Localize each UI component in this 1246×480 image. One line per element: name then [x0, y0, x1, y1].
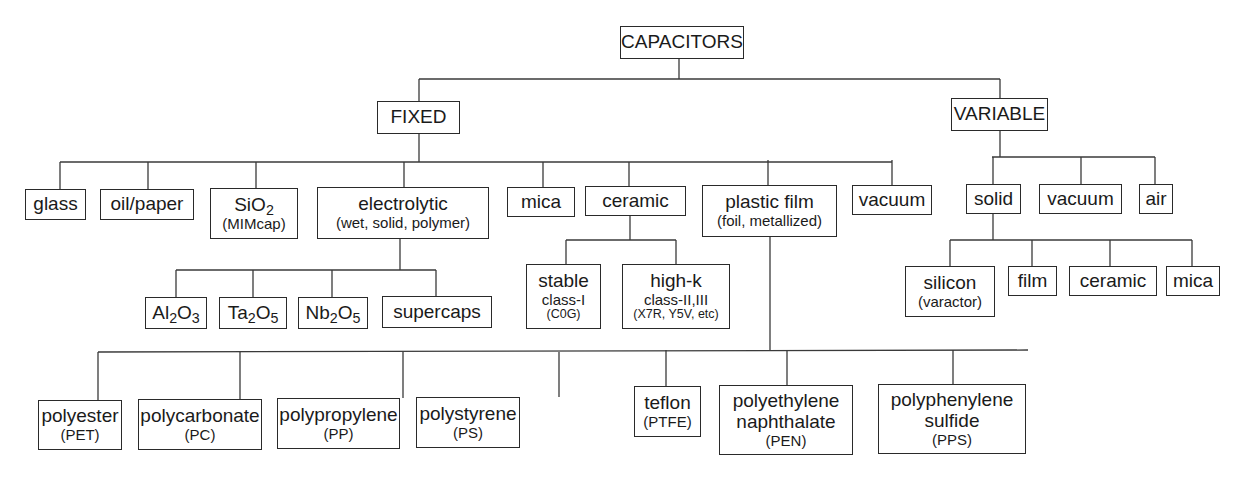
node-note: (varactor) — [918, 294, 982, 311]
node-label: plastic film — [725, 192, 814, 213]
node-film: film — [1008, 266, 1057, 296]
node-ceramic-variable: ceramic — [1069, 266, 1157, 296]
node-oil-paper: oil/paper — [100, 189, 194, 220]
node-stable: stable class-I (C0G) — [526, 264, 601, 329]
node-silicon: silicon (varactor) — [905, 266, 995, 317]
node-label: mica — [1173, 271, 1213, 292]
node-al2o3: Al2O3 — [145, 297, 207, 329]
node-fixed: FIXED — [377, 101, 460, 134]
node-label-formula: Al2O3 — [152, 303, 200, 324]
node-label: polystyrene — [419, 404, 516, 425]
node-label: polyethylene — [733, 391, 840, 412]
node-label: oil/paper — [111, 194, 184, 215]
node-electrolytic: electrolytic (wet, solid, polymer) — [317, 187, 489, 239]
node-mica: mica — [507, 187, 575, 217]
node-polystyrene: polystyrene (PS) — [416, 397, 520, 448]
node-code: (C0G) — [546, 308, 580, 322]
node-plastic-film: plastic film (foil, metallized) — [702, 185, 837, 237]
node-capacitors: CAPACITORS — [620, 26, 744, 59]
node-label: silicon — [924, 273, 977, 294]
node-polypropylene: polypropylene (PP) — [277, 398, 400, 449]
node-label: stable — [538, 271, 589, 292]
node-abbr: (PP) — [324, 426, 354, 443]
node-note: (MIMcap) — [222, 216, 285, 233]
node-solid: solid — [966, 184, 1021, 214]
node-label: vacuum — [859, 190, 926, 211]
node-abbr: (PEN) — [766, 433, 807, 450]
node-vacuum-variable: vacuum — [1039, 184, 1122, 214]
node-label: film — [1018, 271, 1048, 292]
node-class: class-I — [542, 292, 585, 309]
node-sio2: SiO2 (MIMcap) — [210, 188, 298, 239]
node-label: glass — [33, 194, 77, 215]
node-label: air — [1145, 189, 1166, 210]
node-abbr: (PTFE) — [643, 414, 691, 431]
node-label: high-k — [650, 271, 702, 292]
node-label: ceramic — [1080, 271, 1147, 292]
node-label: polyester — [41, 406, 118, 427]
node-label: supercaps — [393, 302, 481, 323]
node-polycarbonate: polycarbonate (PC) — [138, 399, 262, 450]
node-label: mica — [521, 192, 561, 213]
node-abbr: (PET) — [60, 427, 99, 444]
node-ta2o5: Ta2O5 — [219, 297, 287, 329]
node-code: (X7R, Y5V, etc) — [633, 308, 718, 322]
node-label: vacuum — [1047, 189, 1114, 210]
node-label: FIXED — [391, 107, 447, 128]
node-air: air — [1139, 184, 1173, 214]
node-label: polypropylene — [279, 405, 397, 426]
node-label-formula: Ta2O5 — [228, 303, 279, 324]
node-abbr: (PC) — [185, 427, 216, 444]
node-mica-variable: mica — [1166, 266, 1220, 296]
node-variable: VARIABLE — [951, 98, 1048, 131]
node-abbr: (PS) — [453, 425, 483, 442]
node-label: ceramic — [602, 191, 669, 212]
node-label: electrolytic — [358, 194, 448, 215]
node-class: class-II,III — [644, 292, 708, 309]
node-abbr: (PPS) — [932, 432, 972, 449]
node-vacuum-fixed: vacuum — [852, 185, 932, 215]
node-note: (wet, solid, polymer) — [336, 215, 470, 232]
node-label: polycarbonate — [140, 406, 259, 427]
node-polyethylene-naphthalate: polyethylene naphthalate (PEN) — [719, 385, 853, 455]
node-ceramic: ceramic — [585, 186, 686, 216]
node-high-k: high-k class-II,III (X7R, Y5V, etc) — [622, 264, 730, 329]
node-polyphenylene-sulfide: polyphenylene sulfide (PPS) — [878, 384, 1026, 454]
node-label: solid — [974, 189, 1013, 210]
node-supercaps: supercaps — [382, 296, 492, 328]
node-nb2o5: Nb2O5 — [298, 297, 368, 329]
node-label: polyphenylene — [891, 390, 1014, 411]
node-label-2: sulfide — [925, 411, 980, 432]
node-label-2: naphthalate — [736, 412, 835, 433]
node-teflon: teflon (PTFE) — [634, 386, 701, 437]
node-label: teflon — [644, 393, 690, 414]
node-label: VARIABLE — [954, 104, 1046, 125]
node-note: (foil, metallized) — [717, 213, 822, 230]
node-polyester: polyester (PET) — [38, 400, 122, 450]
node-label: CAPACITORS — [621, 32, 743, 53]
node-label-formula: SiO2 — [234, 195, 274, 216]
node-label-formula: Nb2O5 — [306, 303, 361, 324]
node-glass: glass — [25, 189, 86, 220]
